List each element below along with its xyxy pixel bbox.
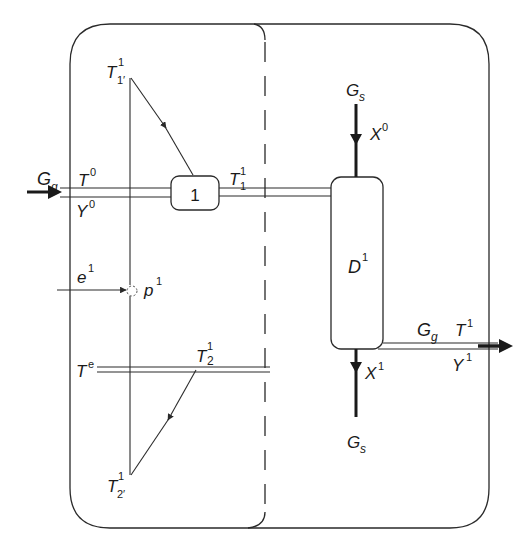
dashed-divider-top-curve bbox=[254, 24, 265, 40]
label-t0: T 0 bbox=[78, 166, 96, 190]
svg-text:T: T bbox=[76, 362, 88, 381]
svg-text:X: X bbox=[369, 125, 382, 144]
svg-text:Y: Y bbox=[76, 202, 89, 221]
unit-1-label: 1 bbox=[190, 186, 199, 205]
label-t2prime: T 1 2′ bbox=[107, 470, 125, 500]
svg-text:0: 0 bbox=[382, 121, 388, 133]
svg-text:G: G bbox=[347, 433, 360, 452]
label-y1-out: Y 1 bbox=[452, 351, 472, 375]
label-t2-1: T 1 2 bbox=[196, 340, 214, 368]
svg-text:1: 1 bbox=[207, 340, 213, 352]
svg-text:1: 1 bbox=[240, 165, 246, 177]
outer-boundary bbox=[70, 24, 489, 528]
svg-text:X: X bbox=[364, 364, 377, 383]
dashed-divider-bottom-curve bbox=[248, 512, 265, 528]
svg-text:G: G bbox=[346, 81, 359, 100]
svg-text:2′: 2′ bbox=[117, 488, 125, 500]
t1prime-line-b bbox=[164, 125, 193, 175]
t1prime-line-a bbox=[131, 78, 166, 128]
svg-text:s: s bbox=[359, 90, 365, 104]
label-gas-outlet: G g bbox=[417, 320, 438, 344]
label-x0: X 0 bbox=[369, 121, 388, 144]
solid-inlet-arrow-icon bbox=[350, 134, 362, 145]
svg-text:e: e bbox=[88, 358, 94, 370]
svg-text:g: g bbox=[51, 180, 58, 194]
label-gas-inlet: G g bbox=[37, 169, 58, 194]
svg-text:1: 1 bbox=[118, 56, 124, 68]
label-e1: e 1 bbox=[77, 262, 94, 287]
solid-outlet-arrow-icon bbox=[350, 362, 362, 373]
svg-text:1: 1 bbox=[240, 180, 246, 192]
svg-text:0: 0 bbox=[90, 166, 96, 178]
label-solid-outlet: G s bbox=[347, 433, 366, 456]
svg-text:G: G bbox=[37, 169, 51, 189]
svg-text:D: D bbox=[348, 257, 361, 277]
svg-text:p: p bbox=[143, 281, 153, 300]
p1-point bbox=[127, 286, 137, 296]
svg-text:e: e bbox=[77, 268, 86, 287]
svg-text:g: g bbox=[431, 330, 438, 344]
t2-line-b bbox=[131, 417, 170, 475]
label-t1-1: T 1 1 bbox=[229, 165, 246, 192]
svg-text:T: T bbox=[455, 321, 467, 340]
svg-text:1: 1 bbox=[156, 275, 162, 287]
svg-text:1: 1 bbox=[362, 251, 368, 263]
t2-line-a bbox=[168, 370, 196, 420]
svg-text:1′: 1′ bbox=[117, 74, 125, 86]
svg-text:1: 1 bbox=[118, 470, 124, 482]
label-te: T e bbox=[76, 358, 94, 381]
svg-text:1: 1 bbox=[467, 317, 473, 329]
svg-text:2: 2 bbox=[207, 354, 214, 368]
svg-text:G: G bbox=[417, 320, 431, 340]
label-x1: X 1 bbox=[364, 360, 384, 383]
gas-outlet-arrow-icon bbox=[499, 339, 513, 353]
label-t1prime: T 1 1′ bbox=[106, 56, 125, 86]
svg-text:1: 1 bbox=[88, 262, 94, 274]
svg-text:s: s bbox=[360, 442, 366, 456]
svg-text:Y: Y bbox=[452, 356, 465, 375]
svg-text:1: 1 bbox=[466, 351, 472, 363]
process-diagram: 1 T 1 1′ G g T 0 Y 0 T 1 bbox=[0, 0, 529, 549]
svg-text:1: 1 bbox=[378, 360, 384, 372]
svg-text:T: T bbox=[78, 171, 90, 190]
label-solid-inlet: G s bbox=[346, 81, 365, 104]
label-t1-out: T 1 bbox=[455, 317, 473, 340]
label-y0: Y 0 bbox=[76, 198, 95, 221]
svg-text:0: 0 bbox=[89, 198, 95, 210]
label-p1: p 1 bbox=[143, 275, 162, 300]
